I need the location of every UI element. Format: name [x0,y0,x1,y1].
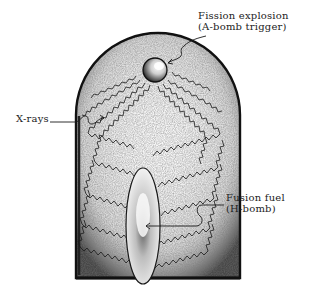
bomb-diagram [0,0,310,295]
x-rays-label: X-rays [16,113,49,124]
xrays-label-text: X-rays [16,113,49,124]
fusion-label-line1: Fusion fuel [226,192,285,203]
fission-label-line1: Fission explosion [198,10,289,21]
fusion-fuel-label: Fusion fuel (H-bomb) [226,192,285,214]
fission-explosion-label: Fission explosion (A-bomb trigger) [198,10,289,32]
fission-sphere [143,58,167,82]
fusion-label-line2: (H-bomb) [226,203,285,214]
fission-label-line2: (A-bomb trigger) [198,21,289,32]
